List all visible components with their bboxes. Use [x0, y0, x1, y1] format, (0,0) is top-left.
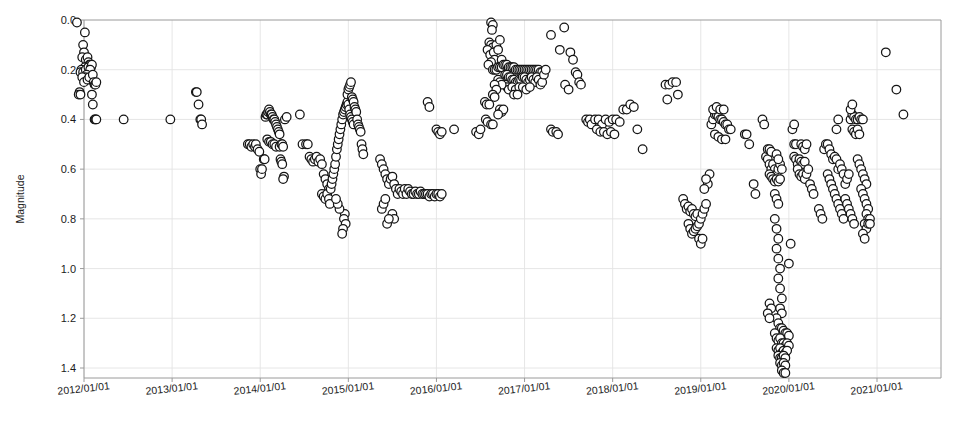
data-point: [721, 135, 730, 144]
data-point: [774, 254, 783, 263]
data-point: [702, 175, 711, 184]
data-point: [742, 130, 751, 139]
data-point: [332, 195, 341, 204]
data-point: [848, 100, 857, 109]
data-point: [633, 125, 642, 134]
y-tick-label: 1.4: [61, 362, 76, 374]
data-point: [866, 220, 875, 229]
data-point: [476, 125, 485, 134]
data-point: [556, 46, 565, 55]
data-point: [338, 229, 347, 238]
data-point: [774, 274, 783, 283]
data-point: [279, 142, 288, 151]
data-point: [630, 103, 639, 112]
data-point: [569, 55, 578, 64]
data-point: [834, 115, 843, 124]
data-point: [513, 90, 522, 99]
data-point: [726, 125, 735, 134]
data-point: [774, 200, 783, 209]
data-point: [774, 155, 783, 164]
y-tick-label: 0.6: [61, 163, 76, 175]
data-point: [198, 120, 207, 129]
data-point: [192, 88, 201, 97]
data-point: [700, 185, 709, 194]
data-point: [804, 165, 813, 174]
data-point: [496, 36, 505, 45]
data-point: [776, 284, 785, 293]
y-tick-label: 0.2: [61, 64, 76, 76]
data-point: [385, 215, 394, 224]
data-point: [672, 78, 681, 87]
data-point: [776, 264, 785, 273]
data-point: [76, 90, 85, 99]
data-point: [845, 170, 854, 179]
data-point: [88, 90, 97, 99]
data-point: [359, 150, 368, 159]
data-point: [258, 165, 267, 174]
y-tick-label: 1.0: [61, 263, 76, 275]
data-point: [882, 48, 891, 57]
data-point: [786, 239, 795, 248]
data-point: [437, 190, 446, 199]
data-point: [663, 95, 672, 104]
data-point: [638, 145, 647, 154]
data-point: [489, 120, 498, 129]
data-point: [526, 83, 535, 92]
data-point: [719, 105, 728, 114]
data-point: [610, 130, 619, 139]
data-point: [92, 78, 101, 87]
data-point: [802, 140, 811, 149]
scatter-plot-svg: 0.00.20.40.60.81.01.21.4 2012/01/012013/…: [0, 0, 973, 422]
data-point: [488, 26, 497, 35]
data-point: [674, 90, 683, 99]
data-point: [859, 115, 868, 124]
data-point: [760, 120, 769, 129]
data-point: [194, 100, 203, 109]
data-point: [781, 369, 790, 378]
data-point: [778, 165, 787, 174]
data-point: [698, 234, 707, 243]
data-point: [564, 85, 573, 94]
data-point: [275, 130, 284, 139]
data-point: [278, 160, 287, 169]
data-point: [899, 110, 908, 119]
data-point: [554, 130, 563, 139]
data-point: [260, 155, 269, 164]
y-tick-label: 0.8: [61, 213, 76, 225]
data-point: [437, 128, 446, 137]
data-point: [490, 93, 499, 102]
data-point: [541, 65, 550, 74]
data-point: [282, 113, 291, 122]
data-point: [770, 215, 779, 224]
data-point: [765, 314, 774, 323]
y-tick-label: 0.4: [61, 113, 76, 125]
data-point: [166, 115, 175, 124]
data-point: [494, 46, 503, 55]
data-point: [850, 220, 859, 229]
data-point: [860, 234, 869, 243]
data-point: [485, 100, 494, 109]
data-point: [356, 128, 365, 137]
data-point: [785, 259, 794, 268]
data-point: [318, 160, 327, 169]
data-point: [832, 125, 841, 134]
y-tick-label: 1.2: [61, 312, 76, 324]
data-point: [577, 80, 586, 89]
data-point: [450, 125, 459, 134]
data-point: [790, 120, 799, 129]
data-point: [774, 234, 783, 243]
chart-figure: 0.00.20.40.60.81.01.21.4 2012/01/012013/…: [0, 0, 973, 422]
data-point: [296, 110, 305, 119]
data-point: [347, 78, 356, 87]
data-point: [778, 294, 787, 303]
data-point: [494, 110, 503, 119]
data-point: [92, 115, 101, 124]
data-point: [749, 180, 758, 189]
data-point: [855, 130, 864, 139]
data-point: [809, 190, 818, 199]
data-point: [818, 215, 827, 224]
data-point: [772, 225, 781, 234]
data-point: [547, 31, 556, 40]
data-point: [81, 28, 90, 37]
data-point: [89, 100, 98, 109]
